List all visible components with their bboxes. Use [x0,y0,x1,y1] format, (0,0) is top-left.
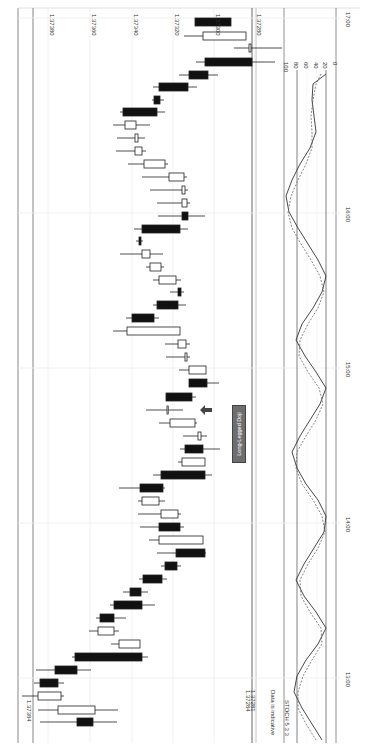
stoch-scale-label: 100 [283,62,289,73]
bearish-candle-body [185,445,203,453]
bullish-candle-body [142,250,150,258]
bearish-candle-body [140,484,163,492]
bearish-candle-body [157,301,178,309]
bearish-candle-body [132,314,154,322]
time-tick-label: 16:00 [345,207,351,223]
price-tick-label: 1.37300 [215,14,221,36]
bullish-candle-body [185,353,187,361]
bearish-candle-body [55,666,77,674]
candle [195,18,231,26]
bullish-candle-body [161,510,178,518]
bullish-candle-body [178,340,186,348]
time-tick-label: 15:00 [345,362,351,378]
bullish-candle-body [203,32,246,40]
price-tick-label: 1.37280 [256,14,262,36]
bullish-candle-body [198,432,201,440]
bearish-candle-body [114,601,142,609]
candle [72,653,148,661]
bearish-candle-body [75,653,142,661]
bullish-candle-body [58,706,95,714]
left-price-label: 1.37384 [26,700,32,722]
bearish-candle-body [165,562,177,570]
bearish-candle-body [176,549,205,557]
time-tick-label: 14:00 [345,517,351,533]
bullish-candle-body [125,121,136,129]
price-tick-label: 1.37340 [133,14,139,36]
bullish-candle-body [144,160,165,168]
stoch-scale-label: 20 [322,62,328,69]
bullish-candle-body [150,263,161,271]
bullish-candle-body [169,173,184,181]
bullish-candle-body [249,44,251,52]
bullish-candle-body [182,199,187,207]
bullish-candle-body [189,366,206,374]
bearish-candle-body [178,288,181,296]
bullish-candle-body [167,406,168,414]
price-tick-label: 1.37320 [174,14,180,36]
bearish-candle-body [139,237,141,245]
bearish-candle-body [195,18,231,26]
price-tick-label: 1.37380 [49,14,55,36]
candle [153,471,212,479]
bullish-candle-body [127,327,180,335]
bearish-candle-body [40,679,58,687]
bearish-candle-body [142,225,180,233]
price-tick-label: 1.37360 [91,14,97,36]
bullish-candle-body [182,458,205,466]
time-tick-label: 17:00 [345,12,351,28]
bearish-candle-body [166,393,192,401]
candle [134,225,188,233]
bullish-candle-body [135,134,138,142]
disclaimer-text: Data is indicative [270,690,276,736]
candle [166,393,196,401]
bearish-candle-body [100,614,114,622]
bearish-candle-body [154,96,160,104]
bullish-candle-body [119,640,140,648]
bearish-candle-body [130,588,141,596]
bullish-candle-body [98,627,114,635]
annotation-text: Long-Legged Doji [236,412,242,455]
candlestick-chart: 1.373801.373601.373401.373201.373001.372… [0,0,384,751]
bullish-candle-body [159,276,176,284]
stoch-scale-label: 60 [303,62,309,69]
bullish-candle-body [142,497,159,505]
candle [178,458,205,466]
bullish-candle-body [182,186,185,194]
current-price-label: 1.37281 [250,690,256,712]
bearish-candle-body [189,71,208,79]
bullish-candle-body [170,419,195,427]
bearish-candle-body [123,108,157,116]
bearish-candle-body [161,471,205,479]
bearish-candle-body [182,212,188,220]
time-tick-label: 13:00 [345,672,351,688]
bullish-candle-body [135,147,142,155]
bearish-candle-body [77,718,93,726]
bearish-candle-body [159,523,180,531]
pattern-annotation-label: Long-Legged Doji [232,405,246,463]
stoch-scale-label: 40 [313,62,319,69]
bearish-candle-body [143,575,162,583]
bearish-candle-body [159,83,188,91]
bullish-candle-body [159,536,203,544]
stoch-scale-label: 80 [293,62,299,69]
bearish-candle-body [189,379,207,387]
indicator-name: STOCH 5 3 3 [284,700,290,737]
bearish-candle-body [205,58,252,66]
bullish-candle-body [38,692,61,700]
